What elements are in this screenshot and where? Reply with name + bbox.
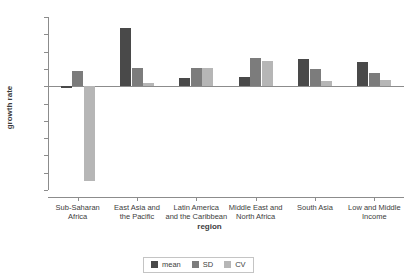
bar-sd-0 <box>72 71 83 86</box>
y-axis-title: growth rate <box>5 68 14 148</box>
bar-sd-3 <box>250 58 261 87</box>
y-axis-line <box>48 17 49 190</box>
y-axis-tick <box>44 69 48 70</box>
y-axis-tick <box>44 138 48 139</box>
y-axis-tick <box>44 86 48 87</box>
legend-swatch-sd <box>192 261 199 268</box>
category-label-line: Income <box>334 212 414 221</box>
x-axis-line <box>48 197 404 198</box>
x-axis-tick <box>315 198 316 201</box>
bar-mean-4 <box>298 59 309 86</box>
legend-item-mean[interactable]: mean <box>151 261 181 269</box>
bar-cv-3 <box>262 61 273 86</box>
y-axis-tick <box>44 52 48 53</box>
chart-legend: meanSDCV <box>143 257 254 273</box>
bar-sd-1 <box>132 68 143 86</box>
bar-mean-0 <box>61 86 72 88</box>
cropped-title-strip <box>0 0 419 7</box>
x-axis-tick <box>78 198 79 201</box>
bar-cv-5 <box>380 80 391 86</box>
bar-cv-1 <box>143 83 154 86</box>
plot-area <box>48 17 404 190</box>
bar-mean-5 <box>357 62 368 86</box>
y-axis-tick <box>44 104 48 105</box>
bar-sd-4 <box>310 69 321 86</box>
bar-cv-2 <box>202 68 213 86</box>
bar-mean-2 <box>179 78 190 87</box>
y-axis-tick <box>44 34 48 35</box>
zero-baseline <box>48 86 404 87</box>
y-axis-tick <box>44 155 48 156</box>
legend-label-sd: SD <box>203 261 213 269</box>
x-axis-title: region <box>0 222 419 231</box>
legend-label-mean: mean <box>162 261 181 269</box>
y-axis-tick <box>44 121 48 122</box>
bar-mean-1 <box>120 28 131 86</box>
legend-label-cv: CV <box>235 261 245 269</box>
legend-item-sd[interactable]: SD <box>192 261 213 269</box>
legend-swatch-mean <box>151 261 158 268</box>
bar-chart: growth rate region 86420-2-4-6-8-10-12 S… <box>0 7 419 274</box>
bar-cv-0 <box>84 86 95 181</box>
x-axis-tick <box>137 198 138 201</box>
bar-sd-2 <box>191 68 202 86</box>
x-axis-tick <box>256 198 257 201</box>
category-label-line: North Africa <box>216 212 296 221</box>
x-axis-tick <box>196 198 197 201</box>
bar-mean-3 <box>239 77 250 87</box>
category-label-line: Low and Middle <box>334 203 414 212</box>
bar-cv-4 <box>321 81 332 86</box>
legend-item-cv[interactable]: CV <box>224 261 245 269</box>
bar-sd-5 <box>369 73 380 86</box>
y-axis-tick <box>44 17 48 18</box>
x-axis-category-label: Low and MiddleIncome <box>334 203 414 221</box>
x-axis-tick <box>374 198 375 201</box>
legend-swatch-cv <box>224 261 231 268</box>
y-axis-tick <box>44 190 48 191</box>
y-axis-tick <box>44 173 48 174</box>
